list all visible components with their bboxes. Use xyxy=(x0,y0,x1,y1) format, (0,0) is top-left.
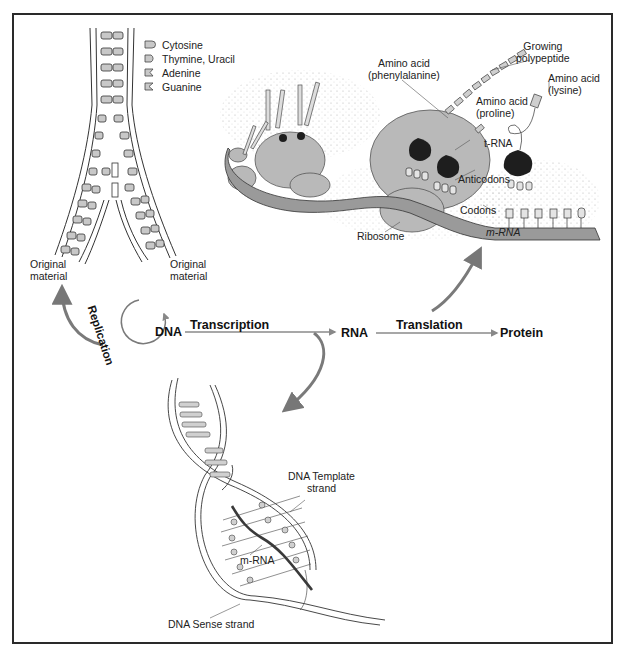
legend-item-cytosine: Cytosine xyxy=(145,38,235,52)
amino-acid-proline-label: Amino acid (proline) xyxy=(476,95,528,119)
legend-item-guanine: Guanine xyxy=(145,80,235,94)
transcription-mrna-label: m-RNA xyxy=(240,554,274,566)
legend-item-adenine: Adenine xyxy=(145,66,235,80)
original-material-left-label: Original material xyxy=(30,258,67,282)
codons-label: Codons xyxy=(460,204,496,216)
rna-label: RNA xyxy=(341,326,368,340)
transcription-detail-arrow xyxy=(285,333,324,410)
legend: Cytosine Thymine, Uracil Adenine Guanine xyxy=(145,38,235,94)
ribosome-label: Ribosome xyxy=(357,230,404,242)
transcription-label: Transcription xyxy=(190,318,269,332)
translation-detail-arrow xyxy=(432,250,480,311)
amino-acid-lysine-label: Amino acid (lysine) xyxy=(548,72,600,96)
trna-label: t-RNA xyxy=(484,137,513,149)
mrna-label: m-RNA xyxy=(486,226,520,238)
translation-label: Translation xyxy=(396,318,463,332)
growing-polypeptide-label: Growing polypeptide xyxy=(516,40,570,64)
original-material-right-label: Original material xyxy=(170,258,207,282)
dna-label: DNA xyxy=(155,325,182,339)
legend-item-thymine-uracil: Thymine, Uracil xyxy=(145,52,235,66)
dna-sense-strand-label: DNA Sense strand xyxy=(168,618,254,630)
dna-template-strand-label: DNA Template strand xyxy=(288,470,355,494)
lysine-amino-acid xyxy=(530,94,542,108)
anticodons-label: Anticodons xyxy=(458,173,510,185)
amino-acid-phenylalanine-label: Amino acid (phenylalanine) xyxy=(368,57,440,81)
transcribed-mrna-strand xyxy=(232,506,312,590)
protein-label: Protein xyxy=(500,326,543,340)
